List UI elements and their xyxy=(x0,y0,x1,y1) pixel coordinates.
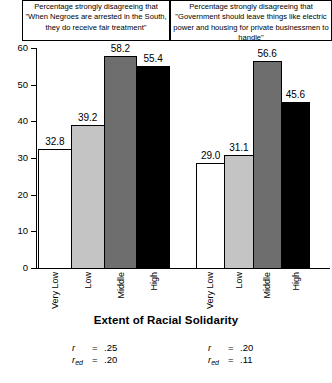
statistic-symbol: r xyxy=(72,342,92,354)
y-axis-tick-mark xyxy=(31,231,37,232)
statistic-row: r=.25 xyxy=(72,342,117,354)
statistic-value: .20 xyxy=(104,354,117,367)
bar-value-label: 56.6 xyxy=(257,49,276,59)
bar: 45.6 xyxy=(281,102,310,269)
bar-value-label: 29.0 xyxy=(201,151,220,161)
y-axis-tick-mark xyxy=(31,85,37,86)
x-axis-category-label-text: High xyxy=(149,272,158,291)
x-axis-category-label-text: High xyxy=(291,272,300,291)
statistic-symbol: r xyxy=(208,342,228,354)
statistic-equals: = xyxy=(228,342,240,354)
y-axis-tick: 10 xyxy=(0,231,37,232)
statistic-value: .20 xyxy=(240,342,253,354)
x-axis-title: Extent of Racial Solidarity xyxy=(0,314,332,326)
bar: 29.0 xyxy=(196,163,225,269)
x-axis-category-label-text: Middle xyxy=(263,272,272,299)
y-axis-tick-label: 0 xyxy=(8,263,28,273)
x-axis-category-label-text: Very Low xyxy=(206,272,215,309)
bar-chart-figure: Percentage strongly disagreeing that "Wh… xyxy=(0,0,332,383)
statistic-equals: = xyxy=(92,354,104,367)
statistic-row: red=.11 xyxy=(208,354,253,367)
y-axis-tick: 20 xyxy=(0,195,37,196)
y-axis-tick-mark xyxy=(31,195,37,196)
y-axis-tick-mark xyxy=(31,48,37,49)
y-axis-tick-mark xyxy=(31,268,37,269)
statistic-equals: = xyxy=(228,354,240,367)
statistics-right: r=.20red=.11 xyxy=(208,342,253,366)
x-axis-category-label-text: Middle xyxy=(116,272,125,299)
bar: 58.2 xyxy=(104,56,138,269)
bar-value-label: 45.6 xyxy=(286,90,305,100)
y-axis-tick: 0 xyxy=(0,268,37,269)
statistic-value: .11 xyxy=(240,354,253,367)
statistic-row: r=.20 xyxy=(208,342,253,354)
statistic-symbol: red xyxy=(72,354,92,367)
bar-value-label: 31.1 xyxy=(229,143,248,153)
y-axis-tick-label: 50 xyxy=(8,80,28,90)
bar: 56.6 xyxy=(253,61,282,269)
statistic-equals: = xyxy=(92,342,104,354)
bar: 32.8 xyxy=(38,149,72,269)
y-axis-tick: 60 xyxy=(0,48,37,49)
panel-title-right: Percentage strongly disagreeing that "Go… xyxy=(170,0,332,41)
bar-value-label: 58.2 xyxy=(111,44,130,54)
y-axis-tick: 50 xyxy=(0,85,37,86)
x-axis-category-label-text: Very Low xyxy=(50,272,59,309)
panel-title-left: Percentage strongly disagreeing that "Wh… xyxy=(22,0,170,41)
statistic-row: red=.20 xyxy=(72,354,117,367)
bar: 31.1 xyxy=(224,155,253,269)
y-axis-tick-label: 40 xyxy=(8,116,28,126)
y-axis-tick-label: 10 xyxy=(8,226,28,236)
y-axis-tick: 30 xyxy=(0,158,37,159)
bar-value-label: 55.4 xyxy=(143,54,162,64)
bar-value-label: 39.2 xyxy=(78,113,97,123)
plot-area-left: 32.839.258.255.4 xyxy=(38,48,170,269)
bar: 39.2 xyxy=(71,125,105,269)
y-axis-tick-mark xyxy=(31,158,37,159)
bar: 55.4 xyxy=(136,66,170,269)
statistic-value: .25 xyxy=(104,342,117,354)
bar-group-left: 32.839.258.255.4 xyxy=(38,49,170,269)
y-axis-tick-label: 20 xyxy=(8,190,28,200)
statistic-symbol: red xyxy=(208,354,228,367)
statistics-left: r=.25red=.20 xyxy=(72,342,117,366)
y-axis-tick-label: 30 xyxy=(8,153,28,163)
x-axis-category-label-text: Low xyxy=(234,272,243,289)
x-axis-category-label-text: Low xyxy=(83,272,92,289)
y-axis-tick-label: 60 xyxy=(8,43,28,53)
y-axis-tick: 40 xyxy=(0,121,37,122)
y-axis-tick-mark xyxy=(31,121,37,122)
bar-value-label: 32.8 xyxy=(45,137,64,147)
plot-area-right: 29.031.156.645.6 xyxy=(196,48,310,269)
bar-group-right: 29.031.156.645.6 xyxy=(196,49,310,269)
